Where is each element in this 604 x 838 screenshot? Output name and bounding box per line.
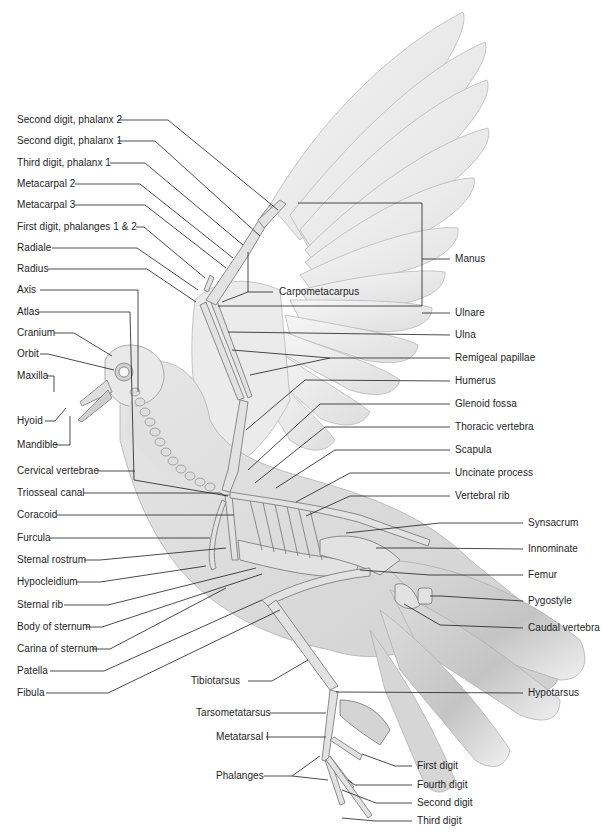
label-sternal-rostrum: Sternal rostrum <box>17 554 86 566</box>
label-second-digit-phalanx-2: Second digit, phalanx 2 <box>17 114 122 126</box>
label-metatarsal-i: Metatarsal I <box>216 731 269 743</box>
label-hypocleidium: Hypocleidium <box>17 576 78 588</box>
label-cervical-vertebrae: Cervical vertebrae <box>17 465 99 477</box>
label-second-digit-phalanx-1: Second digit, phalanx 1 <box>17 135 122 147</box>
label-manus: Manus <box>455 253 485 265</box>
label-body-of-sternum: Body of sternum <box>17 621 91 633</box>
label-uncinate-process: Uncinate process <box>455 467 533 479</box>
label-ulnare: Ulnare <box>455 307 485 319</box>
label-triosseal-canal: Triosseal canal <box>17 487 85 499</box>
label-fourth-digit: Fourth digit <box>417 779 468 791</box>
label-caudal-vertebra: Caudal vertebra <box>528 622 600 634</box>
label-first-digit: First digit <box>417 760 458 772</box>
label-humerus: Humerus <box>455 375 496 387</box>
label-metacarpal-2: Metacarpal 2 <box>17 178 75 190</box>
label-first-digit-phalanges: First digit, phalanges 1 & 2 <box>17 221 137 233</box>
label-second-digit: Second digit <box>417 797 473 809</box>
label-furcula: Furcula <box>17 532 51 544</box>
label-synsacrum: Synsacrum <box>528 517 578 529</box>
label-phalanges: Phalanges <box>216 770 264 782</box>
label-patella: Patella <box>17 665 48 677</box>
label-carina-of-sternum: Carina of sternum <box>17 643 97 655</box>
label-hypotarsus: Hypotarsus <box>528 687 579 699</box>
label-third-digit: Third digit <box>417 815 461 827</box>
label-axis: Axis <box>17 284 36 296</box>
label-coracoid: Coracoid <box>17 509 57 521</box>
label-mandible: Mandible <box>17 439 58 451</box>
label-vertebral-rib: Vertebral rib <box>455 490 510 502</box>
wing-feathers <box>192 12 489 470</box>
label-pygostyle: Pygostyle <box>528 595 572 607</box>
label-maxilla: Maxilla <box>17 370 48 382</box>
label-radius: Radius <box>17 263 48 275</box>
label-fibula: Fibula <box>17 687 45 699</box>
label-tarsometatarsus: Tarsometatarsus <box>196 707 271 719</box>
label-femur: Femur <box>528 569 557 581</box>
label-innominate: Innominate <box>528 543 578 555</box>
label-glenoid-fossa: Glenoid fossa <box>455 398 517 410</box>
label-carpometacarpus: Carpometacarpus <box>279 286 359 298</box>
label-radiale: Radiale <box>17 242 51 254</box>
label-thoracic-vertebra: Thoracic vertebra <box>455 421 534 433</box>
label-sternal-rib: Sternal rib <box>17 599 63 611</box>
label-scapula: Scapula <box>455 444 492 456</box>
label-hyoid: Hyoid <box>17 415 43 427</box>
label-remigeal-papillae: Remigeal papillae <box>455 352 535 364</box>
label-tibiotarsus: Tibiotarsus <box>191 675 240 687</box>
label-ulna: Ulna <box>455 329 476 341</box>
label-orbit: Orbit <box>17 348 39 360</box>
label-metacarpal-3: Metacarpal 3 <box>17 199 75 211</box>
label-cranium: Cranium <box>17 327 55 339</box>
label-third-digit-phalanx-1: Third digit, phalanx 1 <box>17 157 111 169</box>
label-atlas: Atlas <box>17 306 39 318</box>
